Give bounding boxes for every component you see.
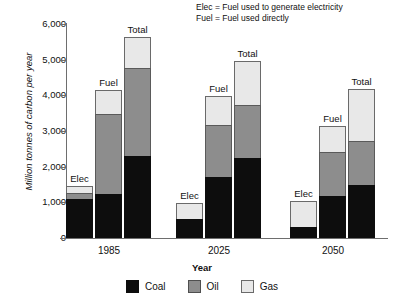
x-tick-label-1985: 1985 <box>98 245 120 256</box>
y-tick-mark <box>60 238 66 239</box>
bar-1985-elec[interactable]: Elec <box>66 186 93 238</box>
segment-coal <box>176 219 203 238</box>
segment-oil <box>124 68 151 157</box>
bar-caption-elec: Elec <box>70 173 88 184</box>
segment-gas <box>348 89 375 141</box>
legend-item-gas: Gas <box>241 280 278 293</box>
y-tick-label: 0 <box>12 232 66 243</box>
bar-2050-fuel[interactable]: Fuel <box>319 126 346 238</box>
bar-caption-fuel: Fuel <box>323 113 341 124</box>
y-tick-mark <box>60 167 66 168</box>
bar-caption-total: Total <box>351 76 371 87</box>
bar-1985-fuel[interactable]: Fuel <box>95 90 122 238</box>
bar-2025-fuel[interactable]: Fuel <box>205 96 232 238</box>
legend-item-oil: Oil <box>188 280 219 293</box>
legend-swatch-oil-icon <box>188 280 201 293</box>
bar-1985-total[interactable]: Total <box>124 37 151 238</box>
carbon-emissions-bar-chart: Elec = Fuel used to generate electricity… <box>0 0 404 303</box>
y-tick-mark <box>60 131 66 132</box>
x-tick-label-2025: 2025 <box>208 245 230 256</box>
segment-gas <box>205 96 232 125</box>
bar-caption-fuel: Fuel <box>99 77 117 88</box>
segment-oil <box>348 141 375 185</box>
y-tick-label: 2,000 <box>12 161 66 172</box>
segment-oil <box>234 105 261 158</box>
chart-annotation: Elec = Fuel used to generate electricity… <box>196 2 343 23</box>
legend-label-oil: Oil <box>207 281 219 292</box>
segment-coal <box>234 158 261 238</box>
bar-group-2050: ElecFuelTotal <box>290 24 376 238</box>
bar-group-1985: ElecFuelTotal <box>66 24 152 238</box>
segment-gas <box>176 203 203 219</box>
segment-coal <box>290 227 317 238</box>
bar-caption-total: Total <box>237 48 257 59</box>
bar-caption-fuel: Fuel <box>209 83 227 94</box>
bar-caption-total: Total <box>127 24 147 35</box>
legend-label-coal: Coal <box>145 281 166 292</box>
annotation-line-fuel: Fuel = Fuel used directly <box>196 13 343 24</box>
segment-gas <box>234 61 261 105</box>
segment-gas <box>124 37 151 67</box>
bar-caption-elec: Elec <box>180 190 198 201</box>
bar-group-2025: ElecFuelTotal <box>176 24 262 238</box>
bar-2025-elec[interactable]: Elec <box>176 203 203 238</box>
segment-coal <box>319 196 346 238</box>
segment-coal <box>205 177 232 238</box>
y-tick-mark <box>60 202 66 203</box>
bar-caption-elec: Elec <box>294 188 312 199</box>
x-tick-label-2050: 2050 <box>322 245 344 256</box>
x-axis-title: Year <box>0 262 404 273</box>
legend-label-gas: Gas <box>260 281 278 292</box>
y-tick-label: 5,000 <box>12 54 66 65</box>
annotation-line-elec: Elec = Fuel used to generate electricity <box>196 2 343 13</box>
segment-gas <box>66 186 93 193</box>
y-tick-label: 4,000 <box>12 89 66 100</box>
y-tick-label: 1,000 <box>12 196 66 207</box>
bar-2025-total[interactable]: Total <box>234 61 261 238</box>
y-tick-mark <box>60 60 66 61</box>
segment-coal <box>124 156 151 238</box>
legend-item-coal: Coal <box>126 280 166 293</box>
segment-oil <box>95 114 122 194</box>
plot-area: ElecFuelTotalElecFuelTotalElecFuelTotal <box>66 24 388 238</box>
segment-coal <box>66 199 93 238</box>
segment-coal <box>348 185 375 238</box>
bar-2050-total[interactable]: Total <box>348 89 375 238</box>
segment-oil <box>319 152 346 196</box>
y-tick-label: 3,000 <box>12 125 66 136</box>
y-tick-mark <box>60 95 66 96</box>
legend-swatch-gas-icon <box>241 280 254 293</box>
y-tick-label: 6,000 <box>12 18 66 29</box>
segment-gas <box>290 201 317 227</box>
chart-legend: Coal Oil Gas <box>0 280 404 293</box>
x-axis-line <box>66 238 388 239</box>
segment-oil <box>205 125 232 178</box>
y-tick-mark <box>60 24 66 25</box>
segment-gas <box>319 126 346 152</box>
bar-2050-elec[interactable]: Elec <box>290 201 317 238</box>
segment-coal <box>95 194 122 238</box>
segment-gas <box>95 90 122 114</box>
legend-swatch-coal-icon <box>126 280 139 293</box>
